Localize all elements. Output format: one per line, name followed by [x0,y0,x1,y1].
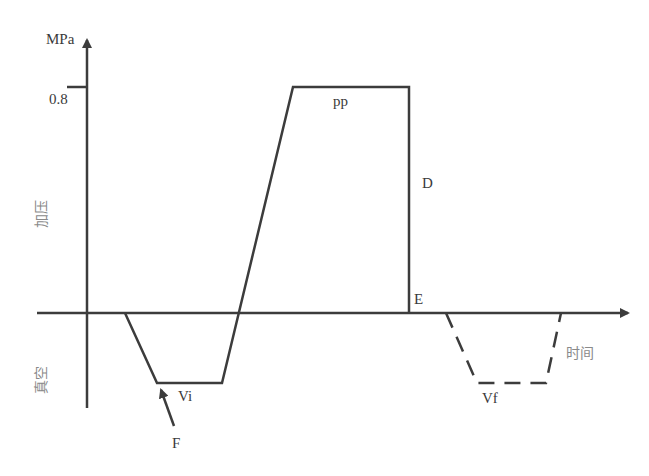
y-tick-label: 0.8 [49,91,68,107]
label-D: D [422,175,433,191]
label-Vf: Vf [482,390,498,406]
pressure-time-diagram: MPa 0.8 加压 真空 pp D E Vi Vf F 时间 [0,0,649,476]
label-F: F [172,435,180,451]
upper-region-label: 加压 [33,200,49,228]
f-arrow [161,390,174,426]
label-pp: pp [333,93,348,109]
final-vacuum-curve [446,313,561,383]
y-unit-label: MPa [46,31,75,47]
lower-region-label: 真空 [33,366,49,394]
label-E: E [414,291,423,307]
label-Vi: Vi [178,388,192,404]
x-axis-label: 时间 [566,345,594,361]
pressure-curve [125,87,409,383]
